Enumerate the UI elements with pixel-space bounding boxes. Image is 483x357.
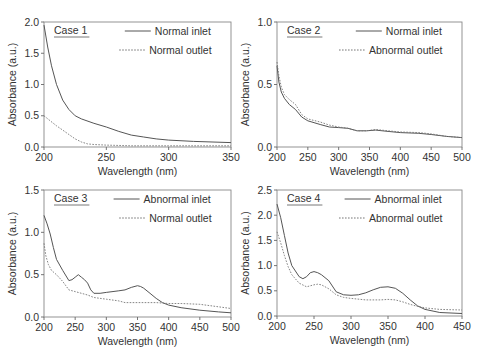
series-line-abnormal-outlet bbox=[277, 232, 462, 310]
y-tick-label: 0.0 bbox=[257, 310, 272, 322]
x-tick-label: 200 bbox=[268, 320, 286, 332]
legend-label: Normal outlet bbox=[149, 44, 212, 56]
y-tick-label: 0.0 bbox=[257, 141, 272, 153]
y-tick-label: 0.0 bbox=[24, 311, 39, 323]
y-axis-label: Absorbance (a.u.) bbox=[6, 212, 18, 295]
panel-label: Case 4 bbox=[287, 192, 320, 204]
panel-label: Case 1 bbox=[54, 24, 87, 36]
x-tick-label: 300 bbox=[98, 321, 116, 333]
x-axis-label: Wavelength (nm) bbox=[98, 165, 178, 177]
legend-label: Abnormal inlet bbox=[144, 193, 211, 205]
x-tick-label: 450 bbox=[191, 321, 209, 333]
plot-frame bbox=[44, 22, 231, 147]
x-tick-label: 400 bbox=[416, 320, 434, 332]
y-tick-label: 2.0 bbox=[257, 209, 272, 221]
x-tick-label: 400 bbox=[160, 321, 178, 333]
y-tick-label: 1.5 bbox=[24, 47, 39, 59]
y-tick-label: 2.0 bbox=[24, 16, 39, 28]
panel-case-4: 2002503003504004500.00.51.01.52.02.5Wave… bbox=[239, 184, 471, 347]
x-axis-label: Wavelength (nm) bbox=[98, 335, 178, 347]
y-axis-label: Absorbance (a.u.) bbox=[6, 43, 18, 126]
legend-label: Normal outlet bbox=[149, 212, 212, 224]
y-tick-label: 0.5 bbox=[24, 109, 39, 121]
x-tick-label: 500 bbox=[453, 151, 471, 163]
y-tick-label: 0.0 bbox=[24, 141, 39, 153]
panel-case-1: 2002503003500.00.51.01.52.0Wavelength (n… bbox=[6, 16, 240, 178]
x-tick-label: 350 bbox=[379, 320, 397, 332]
x-tick-label: 250 bbox=[98, 151, 116, 163]
legend-label: Abnormal outlet bbox=[369, 44, 443, 56]
x-tick-label: 300 bbox=[160, 151, 178, 163]
x-tick-label: 450 bbox=[453, 320, 471, 332]
y-tick-label: 2.5 bbox=[257, 184, 272, 196]
y-tick-label: 0.5 bbox=[24, 268, 39, 280]
x-tick-label: 200 bbox=[35, 321, 53, 333]
y-tick-label: 1.5 bbox=[257, 234, 272, 246]
y-tick-label: 1.0 bbox=[24, 78, 39, 90]
series-line-normal-inlet bbox=[277, 66, 462, 138]
y-tick-label: 1.0 bbox=[24, 226, 39, 238]
panel-case-2: 2002503003504004505000.00.51.0Wavelength… bbox=[239, 16, 471, 178]
x-tick-label: 350 bbox=[222, 151, 240, 163]
y-tick-label: 1.0 bbox=[257, 259, 272, 271]
series-line-normal-outlet bbox=[44, 243, 231, 308]
legend-label: Abnormal inlet bbox=[375, 193, 442, 205]
legend-label: Normal inlet bbox=[386, 25, 442, 37]
y-axis-label: Absorbance (a.u.) bbox=[239, 211, 251, 294]
x-tick-label: 300 bbox=[330, 151, 348, 163]
y-tick-label: 1.0 bbox=[257, 16, 272, 28]
x-tick-label: 200 bbox=[35, 151, 53, 163]
x-tick-label: 250 bbox=[299, 151, 317, 163]
x-tick-label: 250 bbox=[66, 321, 84, 333]
x-tick-label: 300 bbox=[342, 320, 360, 332]
series-line-abnormal-inlet bbox=[44, 215, 231, 312]
panel-label: Case 3 bbox=[54, 192, 87, 204]
x-tick-label: 250 bbox=[305, 320, 323, 332]
x-tick-label: 450 bbox=[422, 151, 440, 163]
y-tick-label: 0.5 bbox=[257, 78, 272, 90]
figure: 2002503003500.00.51.01.52.0Wavelength (n… bbox=[0, 0, 483, 357]
x-tick-label: 350 bbox=[129, 321, 147, 333]
legend-label: Normal inlet bbox=[155, 25, 211, 37]
x-axis-label: Wavelength (nm) bbox=[330, 334, 410, 346]
x-tick-label: 400 bbox=[392, 151, 410, 163]
x-axis-label: Wavelength (nm) bbox=[330, 165, 410, 177]
plot-frame bbox=[277, 22, 462, 147]
x-tick-label: 500 bbox=[222, 321, 240, 333]
y-tick-label: 1.5 bbox=[24, 184, 39, 196]
series-line-abnormal-outlet bbox=[277, 62, 462, 138]
panel-label: Case 2 bbox=[287, 24, 320, 36]
y-axis-label: Absorbance (a.u.) bbox=[239, 43, 251, 126]
x-tick-label: 200 bbox=[268, 151, 286, 163]
legend-label: Abnormal outlet bbox=[369, 212, 443, 224]
x-tick-label: 350 bbox=[361, 151, 379, 163]
panel-case-3: 2002503003504004505000.00.51.01.5Wavelen… bbox=[6, 184, 240, 348]
y-tick-label: 0.5 bbox=[257, 284, 272, 296]
plot-frame bbox=[44, 190, 231, 317]
plot-frame bbox=[277, 190, 462, 316]
